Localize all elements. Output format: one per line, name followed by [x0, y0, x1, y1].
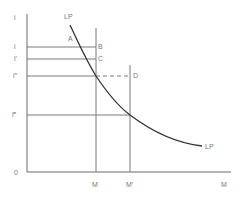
- x-axis-label: M: [221, 181, 227, 188]
- point-b-label: B: [98, 43, 103, 50]
- label-i-prime: i′: [14, 55, 18, 62]
- label-i-triple-prime: i‴: [12, 111, 17, 118]
- x-tick-m-prime: M′: [126, 181, 134, 188]
- point-c-label: C: [98, 55, 103, 62]
- lp-curve: [70, 25, 202, 146]
- label-i-double-prime: i″: [13, 72, 18, 79]
- label-i: i: [14, 43, 16, 50]
- lp-label-bottom: LP: [205, 143, 214, 150]
- point-a-label: A: [68, 35, 73, 42]
- origin-label: 0: [14, 169, 18, 176]
- lp-label-top: LP: [64, 13, 73, 20]
- y-axis-label: i: [14, 14, 16, 21]
- liquidity-preference-diagram: i i i′ i″ i‴ 0 LP LP A B C D M M′ M: [0, 0, 243, 198]
- x-tick-m: M: [92, 181, 98, 188]
- point-d-label: D: [133, 72, 138, 79]
